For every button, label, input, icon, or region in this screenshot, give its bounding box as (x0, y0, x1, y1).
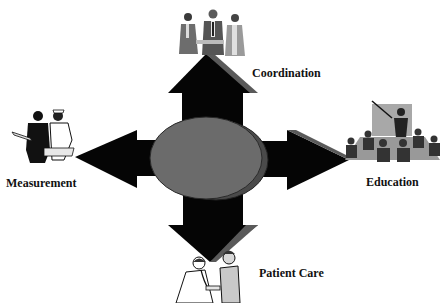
business-people-handshake-icon (179, 10, 245, 57)
classroom-presentation-icon (345, 101, 440, 162)
node-label-measurement: Measurement (6, 176, 76, 191)
nurses-reviewing-chart-icon (12, 110, 74, 163)
node-label-education: Education (366, 175, 419, 190)
center-hub (150, 117, 268, 200)
four-way-arrow-diagram (0, 0, 443, 303)
node-label-coordination: Coordination (252, 66, 321, 81)
node-label-patient-care: Patient Care (259, 266, 324, 281)
